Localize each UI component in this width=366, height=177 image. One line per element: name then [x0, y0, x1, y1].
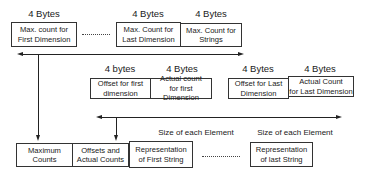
box-offset-last-dimension: Offset for LastDimension [228, 78, 289, 99]
box-representation-first-string: Representationof First String [129, 141, 193, 168]
span-arrow-offsets-actual-counts [99, 117, 338, 118]
box-text-line: Offset for first [98, 79, 143, 89]
box-actual-count-last-dimension: Actual Countfor Last Dimension [288, 76, 354, 97]
ellipsis-top [82, 34, 110, 35]
box-offset-first-dimension: Offset for firstdimension [90, 78, 151, 99]
box-text-line: Offset for Last [235, 79, 283, 89]
box-max-count-strings: Max. Count forStrings [180, 23, 242, 47]
box-text-line: Counts [28, 155, 61, 165]
box-text-line: Representation [256, 145, 308, 155]
element-size-label-first: Size of each Element [150, 128, 242, 138]
arrowhead-right-icon [238, 52, 244, 56]
size-label-offset-last: 4 Bytes [236, 64, 280, 74]
box-text-line: Max. Count for [186, 26, 236, 36]
box-offsets-actual-counts: Offsets andActual Counts [72, 143, 129, 167]
size-label-offset-first: 4 bytes [98, 64, 142, 74]
box-text-line: Max. count for [18, 25, 71, 35]
box-text-line: of last String [256, 155, 308, 165]
box-text-line: Maximum [28, 146, 61, 156]
arrowhead-down-icon [114, 135, 118, 141]
arrowhead-down-icon [36, 135, 40, 141]
box-text-line: Offsets and [77, 146, 124, 156]
box-text-line: Actual Counts [77, 155, 124, 165]
box-maximum-counts: MaximumCounts [16, 143, 73, 167]
ellipsis-bottom [202, 156, 240, 157]
box-text-line: Actual count [151, 74, 211, 84]
element-size-label-last: Size of each Element [249, 128, 341, 138]
arrowhead-left-icon [17, 52, 23, 56]
size-label-max-count-first: 4 Bytes [22, 9, 66, 19]
size-label-actual-count-first: 4 Bytes [160, 64, 204, 74]
arrowhead-left-icon [96, 115, 102, 119]
connector-to-maximum-counts [38, 54, 39, 137]
box-text-line: of First String [135, 155, 187, 165]
arrowhead-right-icon [336, 115, 342, 119]
span-arrow-max-counts [20, 54, 240, 55]
connector-to-offsets-actual-counts [116, 117, 117, 137]
box-max-count-first-dimension: Max. count forFirst Dimension [11, 22, 77, 47]
box-text-line: Max. Count for [122, 25, 174, 35]
size-label-max-count-last: 4 Bytes [126, 9, 170, 19]
box-text-line: Dimension [235, 89, 283, 99]
box-representation-last-string: Representationof last String [250, 142, 313, 167]
box-text-line: for first Dimension [151, 84, 211, 103]
box-text-line: for Last Dimension [289, 87, 352, 97]
size-label-actual-count-last: 4 Bytes [298, 64, 342, 74]
box-text-line: Representation [135, 145, 187, 155]
size-label-max-count-strings: 4 Bytes [189, 9, 233, 19]
box-actual-count-first-dimension: Actual countfor first Dimension [150, 78, 212, 99]
box-text-line: Actual Count [289, 77, 352, 87]
box-text-line: Strings [186, 35, 236, 45]
box-text-line: Last Dimension [122, 35, 174, 45]
box-text-line: First Dimension [18, 35, 71, 45]
box-text-line: dimension [98, 89, 143, 99]
box-max-count-last-dimension: Max. Count forLast Dimension [116, 22, 181, 47]
